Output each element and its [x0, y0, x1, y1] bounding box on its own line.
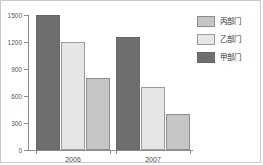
y-axis-line	[28, 15, 29, 151]
y-tick-mark	[24, 150, 28, 151]
x-tick-mark	[116, 150, 117, 154]
legend-swatch-icon	[197, 16, 215, 27]
x-tick-mark	[110, 150, 111, 154]
y-tick-mark	[24, 42, 28, 43]
chart-figure: 1500 1200 900 600 300 0 2006 2007	[0, 0, 261, 163]
y-tick-label: 0	[2, 147, 22, 154]
x-tick-mark	[190, 150, 191, 154]
y-tick-mark	[24, 123, 28, 124]
legend-item-bing[interactable]: 丙部门	[197, 13, 255, 30]
bar-yi-2006[interactable]	[61, 42, 85, 150]
plot-area: 1500 1200 900 600 300 0 2006 2007	[28, 15, 193, 151]
chart-legend: 丙部门 乙部门 甲部门	[197, 13, 255, 67]
bar-bing-2006[interactable]	[86, 78, 110, 150]
bar-jia-2007[interactable]	[116, 37, 140, 150]
bar-group-2007	[116, 15, 190, 150]
legend-item-jia[interactable]: 甲部门	[197, 49, 255, 66]
x-tick-mark	[36, 150, 37, 154]
legend-swatch-icon	[197, 34, 215, 45]
bar-bing-2007[interactable]	[166, 114, 190, 150]
legend-label: 丙部门	[220, 17, 241, 26]
x-tick-label-2006: 2006	[53, 155, 93, 164]
bar-group-2006	[36, 15, 110, 150]
y-tick-label: 300	[2, 120, 22, 127]
x-tick-label-2007: 2007	[133, 155, 173, 164]
legend-label: 乙部门	[220, 35, 241, 44]
y-tick-label: 1500	[2, 12, 22, 19]
y-tick-label: 1200	[2, 39, 22, 46]
y-tick-label: 900	[2, 66, 22, 73]
y-tick-mark	[24, 15, 28, 16]
legend-swatch-icon	[197, 52, 215, 63]
y-tick-mark	[24, 96, 28, 97]
legend-item-yi[interactable]: 乙部门	[197, 31, 255, 48]
bar-yi-2007[interactable]	[141, 87, 165, 150]
y-tick-label: 600	[2, 93, 22, 100]
y-tick-mark	[24, 69, 28, 70]
bar-jia-2006[interactable]	[36, 15, 60, 150]
legend-label: 甲部门	[220, 53, 241, 62]
